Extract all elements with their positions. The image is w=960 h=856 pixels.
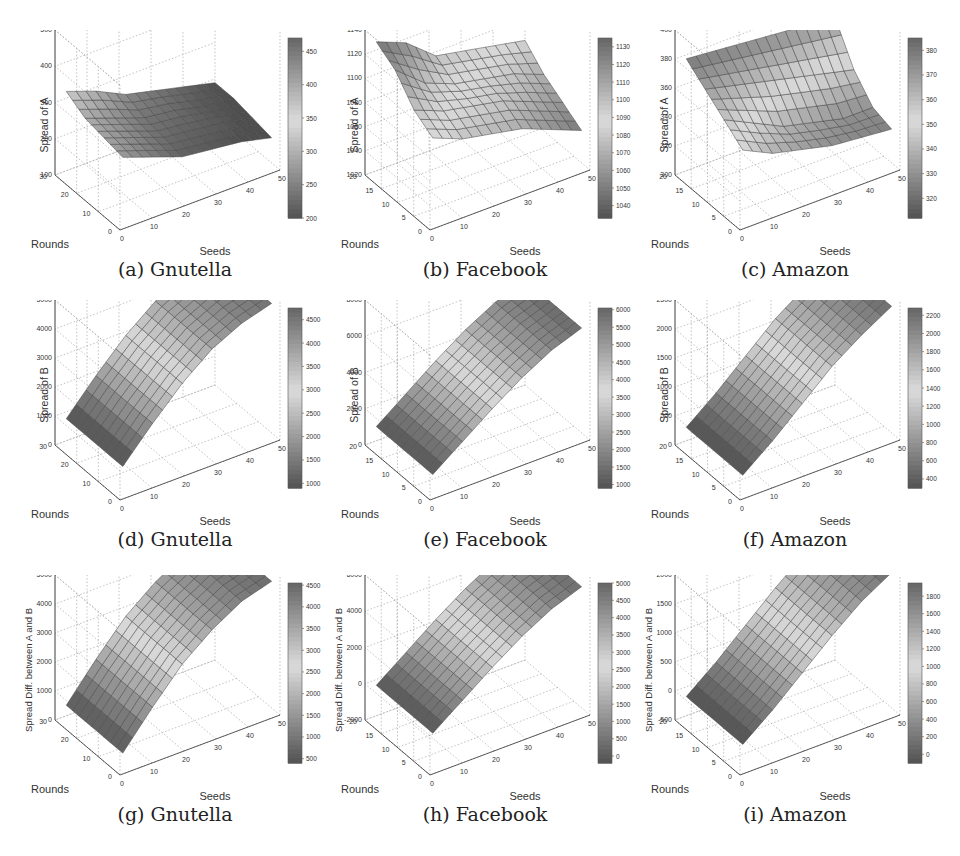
x-tick-label: 30 <box>214 469 222 476</box>
z-tick-label: 5000 <box>36 575 52 578</box>
y-tick-label: 15 <box>675 457 683 464</box>
caption-tag: (d) <box>117 528 144 550</box>
surface-plot-i: 0102030405005101520-5000500100015002000S… <box>640 575 950 805</box>
colorbar-tick-label: 4500 <box>306 582 321 589</box>
colorbar: 4006008001000120014001600180020002200 <box>908 308 941 489</box>
colorbar-tick-label: 360 <box>926 96 937 103</box>
z-tick-label: 4000 <box>36 600 52 607</box>
y-tick-label: 5 <box>402 484 406 491</box>
y-tick-label: 20 <box>61 736 69 743</box>
y-axis-label: Rounds <box>341 783 379 795</box>
colorbar-tick-label: 0 <box>616 753 620 760</box>
x-tick-label: 20 <box>492 211 500 218</box>
x-axis-label: Seeds <box>199 245 231 257</box>
z-tick-label: 360 <box>660 84 672 91</box>
colorbar-tick-label: 1050 <box>616 185 631 192</box>
colorbar-tick-label: 4500 <box>306 316 321 323</box>
y-axis-label: Rounds <box>31 238 69 250</box>
colorbar-tick-label: 0 <box>926 751 930 758</box>
colorbar-tick-label: 2000 <box>926 330 941 337</box>
colorbar-tick-label: 600 <box>926 698 937 705</box>
x-tick-label: 50 <box>898 445 906 452</box>
x-tick-label: 30 <box>214 199 222 206</box>
surface-mesh <box>66 83 271 158</box>
y-tick-label: 10 <box>382 201 390 208</box>
colorbar: 10001500200025003000350040004500 <box>288 308 321 489</box>
x-tick-label: 10 <box>460 493 468 500</box>
z-tick-label: 100 <box>40 171 52 178</box>
surface-plot-d: 010203040500102030010002000300040005000S… <box>20 300 330 530</box>
z-tick-label: 3000 <box>36 629 52 636</box>
colorbar-tick-label: 500 <box>306 755 317 762</box>
colorbar-tick-label: 340 <box>926 145 937 152</box>
caption-tag: (h) <box>423 803 450 825</box>
colorbar-tick-label: 1500 <box>616 701 631 708</box>
x-tick-label: 0 <box>740 505 744 512</box>
y-tick-label: 10 <box>692 201 700 208</box>
x-tick-label: 50 <box>588 175 596 182</box>
y-tick-label: 0 <box>728 228 732 235</box>
colorbar-tick-label: 1000 <box>926 663 941 670</box>
colorbar-tick-label: 250 <box>306 181 317 188</box>
caption-dataset: Gnutella <box>150 803 232 825</box>
caption-tag: (b) <box>423 258 450 280</box>
colorbar: 320330340350360370380 <box>908 38 937 219</box>
x-tick-label: 40 <box>866 457 874 464</box>
panel-i: 0102030405005101520-5000500100015002000S… <box>640 575 950 840</box>
colorbar-tick-label: 1070 <box>616 149 631 156</box>
panel-c: 0102030405005101520300320340360380400See… <box>640 30 950 295</box>
panel-caption: (a)Gnutella <box>20 258 330 280</box>
x-tick-label: 0 <box>430 780 434 787</box>
y-tick-label: 10 <box>692 471 700 478</box>
x-tick-label: 20 <box>492 756 500 763</box>
colorbar-tick-label: 400 <box>926 716 937 723</box>
z-tick-label: 1140 <box>347 30 362 33</box>
x-tick-label: 0 <box>120 235 124 242</box>
y-tick-label: 0 <box>108 773 112 780</box>
y-axis-label: Rounds <box>341 238 379 250</box>
x-tick-label: 50 <box>278 175 286 182</box>
x-tick-label: 0 <box>120 780 124 787</box>
y-axis-label: Rounds <box>651 508 689 520</box>
colorbar-tick-label: 370 <box>926 71 937 78</box>
colorbar-tick-label: 4500 <box>616 359 631 366</box>
panel-caption: (h)Facebook <box>330 803 640 825</box>
colorbar-tick-label: 450 <box>306 48 317 55</box>
z-tick-label: 380 <box>660 55 672 62</box>
colorbar-tick-label: 3500 <box>306 363 321 370</box>
z-axis-label: Spread Diff. between A and B <box>333 608 344 732</box>
surface-mesh <box>66 575 271 753</box>
surface-plot-a: 010203040500102030100200300400500SeedsRo… <box>20 30 330 260</box>
caption-tag: (i) <box>743 803 764 825</box>
x-axis-label: Seeds <box>509 790 541 802</box>
x-axis-label: Seeds <box>509 515 541 527</box>
y-tick-label: 15 <box>365 732 373 739</box>
colorbar-tick-label: 3000 <box>616 411 631 418</box>
z-tick-label: 6000 <box>346 575 362 578</box>
z-tick-label: 300 <box>660 171 672 178</box>
x-tick-label: 40 <box>246 457 254 464</box>
colorbar: 0500100015002000250030003500400045005000 <box>598 580 631 764</box>
surface-mesh <box>686 300 891 475</box>
colorbar-tick-label: 500 <box>616 735 627 742</box>
z-tick-label: 2000 <box>346 644 362 651</box>
panel-caption: (e)Facebook <box>330 528 640 550</box>
x-axis-label: Seeds <box>199 790 231 802</box>
y-tick-label: 0 <box>418 773 422 780</box>
x-tick-label: 20 <box>802 211 810 218</box>
colorbar-tick-label: 350 <box>926 121 937 128</box>
z-tick-label: 3000 <box>36 354 52 361</box>
z-axis-label: Spread Diff. between A and B <box>23 608 34 732</box>
colorbar: 020040060080010001200140016001800 <box>908 583 941 764</box>
x-tick-label: 30 <box>524 744 532 751</box>
x-tick-label: 10 <box>770 493 778 500</box>
panel-f: 010203040500510152005001000150020002500S… <box>640 300 950 565</box>
x-tick-label: 30 <box>214 744 222 751</box>
x-axis-label: Seeds <box>819 790 851 802</box>
y-tick-label: 30 <box>39 443 47 450</box>
caption-dataset: Amazon <box>772 258 849 280</box>
panel-caption: (c)Amazon <box>640 258 950 280</box>
colorbar-tick-label: 1200 <box>926 403 941 410</box>
x-tick-label: 0 <box>120 505 124 512</box>
surface-plot-e: 010203040500510152002000400060008000Seed… <box>330 300 640 530</box>
